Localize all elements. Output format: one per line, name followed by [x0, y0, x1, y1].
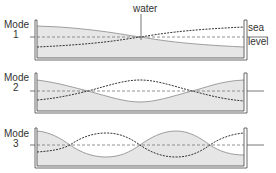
mode-2-number: 2: [13, 82, 19, 93]
level-label: level: [248, 36, 269, 47]
mode-1-number: 1: [13, 29, 19, 40]
mode-2-water: [37, 80, 244, 111]
mode-3-panel: Mode 3: [4, 128, 264, 168]
mode-2-panel: Mode 2: [4, 72, 264, 113]
mode-3-water: [37, 131, 244, 166]
mode-1-panel: Mode 1 water sea level: [4, 3, 269, 60]
mode-3-number: 3: [13, 138, 19, 149]
water-label: water: [132, 3, 158, 14]
sea-label: sea: [248, 22, 265, 33]
seiche-modes-diagram: Mode 1 water sea level Mode 2 Mode 3: [0, 0, 276, 173]
mode-1-water: [37, 26, 244, 58]
